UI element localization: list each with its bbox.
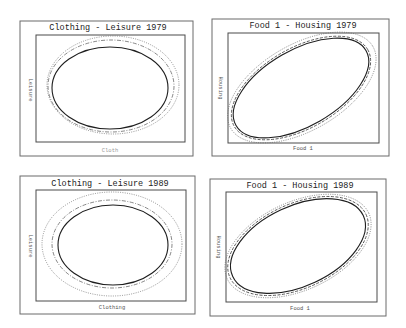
chart-title: Food 1 - Housing 1979 [249, 21, 356, 31]
x-axis-label: Cloth [102, 147, 119, 154]
ellipse-middle [52, 200, 172, 288]
panel-frame [20, 21, 193, 156]
y-axis-label: Leisure [27, 234, 34, 257]
ellipse-outer [42, 192, 182, 296]
plot-area [228, 33, 379, 143]
ellipse-outer [47, 36, 179, 134]
chart-title: Clothing - Leisure 1979 [49, 23, 166, 33]
panel-frame [212, 19, 389, 156]
chart-title: Food 1 - Housing 1989 [246, 181, 353, 191]
ellipse-inner [217, 18, 385, 159]
panel-food-housing-1979: Food 1 - Housing 1979 Food 1 Housing [209, 9, 394, 165]
panel-clothing-leisure-1979: Clothing - Leisure 1979 Cloth Leisure [20, 21, 193, 156]
chart-grid: Clothing - Leisure 1979 Cloth Leisure Fo… [0, 0, 406, 328]
ellipse-inner [52, 47, 168, 129]
y-axis-label: Housing [215, 235, 222, 258]
ellipse-inner [58, 205, 168, 285]
y-axis-label: Leisure [27, 78, 34, 101]
chart-title: Clothing - Leisure 1989 [51, 179, 168, 189]
x-axis-label: Food 1 [290, 305, 311, 312]
x-axis-label: Food 1 [293, 145, 314, 152]
panel-clothing-leisure-1989: Clothing - Leisure 1989 Clothing Leisure [20, 176, 195, 314]
ellipse-middle [212, 176, 383, 316]
x-axis-label: Clothing [99, 304, 125, 311]
plot-area [226, 192, 377, 302]
ellipse-outer [209, 173, 388, 319]
ellipse-middle [48, 40, 174, 132]
plot-area [36, 35, 185, 142]
panel-food-housing-1989: Food 1 - Housing 1989 Food 1 Housing [209, 173, 388, 319]
panel-frame [20, 176, 195, 314]
y-axis-label: Housing [217, 76, 224, 99]
